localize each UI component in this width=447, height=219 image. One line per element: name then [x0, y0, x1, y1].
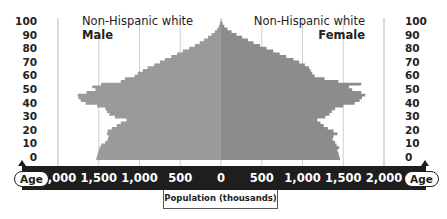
x-tick-label: 1,500: [81, 171, 117, 185]
x-tick-label: 500: [250, 171, 274, 185]
x-axis-title: Population (thousands): [163, 190, 278, 209]
y-tick-label: 70: [405, 56, 420, 68]
x-tick-label: 1,500: [325, 171, 361, 185]
y-tick-label: 40: [22, 97, 37, 109]
y-tick-label: 0: [30, 151, 37, 163]
x-tick-label: 0: [217, 171, 225, 185]
y-tick-label: 80: [22, 42, 37, 54]
arrow-up-icon-right: [421, 160, 429, 166]
male-title: Non-Hispanic white: [82, 14, 193, 28]
female-subtitle: Female: [318, 28, 365, 42]
y-tick-label: 60: [405, 69, 420, 81]
population-pyramid-chart: 1009080706050403020100 10090807060504030…: [0, 0, 447, 219]
x-tick-label: 1,000: [121, 171, 157, 185]
x-tick-label: 500: [168, 171, 192, 185]
y-tick-label: 10: [22, 137, 37, 149]
male-subtitle: Male: [82, 28, 113, 42]
age-label-right: Age: [404, 171, 439, 187]
y-tick-label: 30: [22, 110, 37, 122]
y-tick-label: 90: [22, 29, 37, 41]
y-tick-label: 40: [405, 97, 420, 109]
y-tick-label: 90: [405, 29, 420, 41]
y-tick-label: 80: [405, 42, 420, 54]
y-tick-label: 20: [405, 124, 420, 136]
y-tick-label: 50: [405, 83, 420, 95]
y-tick-label: 10: [405, 137, 420, 149]
x-tick-label: 1,000: [284, 171, 320, 185]
age-label-left: Age: [14, 171, 49, 187]
y-tick-label: 70: [22, 56, 37, 68]
y-tick-label: 0: [405, 151, 412, 163]
y-tick-label: 100: [15, 15, 37, 27]
female-title: Non-Hispanic white: [254, 14, 365, 28]
y-tick-label: 100: [405, 15, 427, 27]
y-tick-label: 50: [22, 83, 37, 95]
arrow-up-icon-left: [18, 160, 26, 166]
y-tick-label: 30: [405, 110, 420, 122]
y-tick-label: 60: [22, 69, 37, 81]
x-tick-label: 2,000: [366, 171, 402, 185]
y-tick-label: 20: [22, 124, 37, 136]
